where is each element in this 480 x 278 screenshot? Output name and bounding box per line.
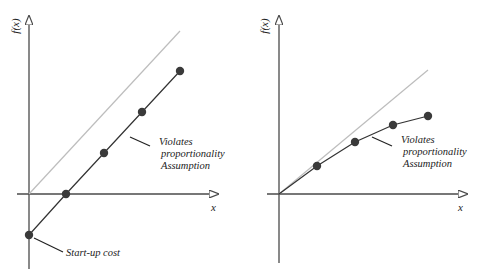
annotation-text-line-3: Assumption	[402, 158, 452, 169]
diagram-canvas: f(x) x Violates proportionality Assumpti…	[0, 0, 480, 278]
startup-cost-label: Start-up cost	[66, 247, 121, 258]
y-axis-label: f(x)	[9, 18, 22, 34]
annotation-leader	[130, 137, 150, 146]
data-point	[138, 108, 146, 116]
proportional-reference-line	[279, 70, 428, 194]
annotation-text-line-3: Assumption	[160, 160, 210, 171]
annotation-leader	[372, 137, 392, 146]
data-point	[176, 67, 184, 75]
y-axis-label: f(x)	[258, 18, 271, 34]
annotation-text-line-1: Violates	[401, 134, 435, 145]
data-point	[100, 149, 108, 157]
data-point	[62, 190, 70, 198]
left-panel: f(x) x Violates proportionality Assumpti…	[9, 16, 225, 269]
x-axis-label: x	[457, 201, 463, 213]
right-panel: f(x) x Violates proportionality Assumpti…	[258, 16, 467, 263]
data-point	[25, 231, 33, 239]
annotation-text-line-1: Violates	[159, 136, 193, 147]
annotation-text-line-2: proportionality	[160, 148, 225, 159]
startup-leader	[34, 238, 63, 252]
data-point	[313, 162, 321, 170]
proportionality-diagram: f(x) x Violates proportionality Assumpti…	[0, 0, 480, 278]
x-axis-label: x	[210, 201, 216, 213]
data-point	[351, 138, 359, 146]
proportional-reference-line	[29, 31, 180, 194]
data-point	[389, 121, 397, 129]
data-point	[424, 112, 432, 120]
annotation-text-line-2: proportionality	[402, 146, 467, 157]
